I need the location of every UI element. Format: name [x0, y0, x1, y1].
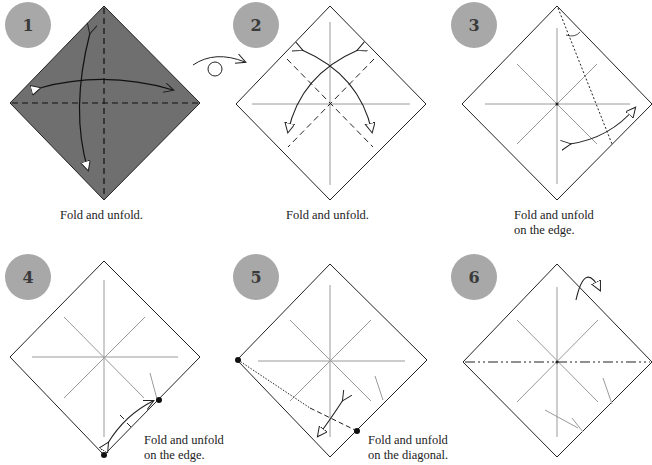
step-6-diagram: [463, 264, 652, 457]
step-badge-5: 5: [233, 254, 279, 300]
turn-over-icon: [193, 57, 245, 76]
step-badge-4: 4: [5, 254, 51, 300]
step-5-caption: Fold and unfold on the diagonal.: [368, 433, 448, 463]
step-4-caption: Fold and unfold on the edge.: [144, 433, 224, 463]
step-1-caption: Fold and unfold.: [60, 208, 143, 223]
step-2-caption: Fold and unfold.: [286, 208, 369, 223]
step-badge-2: 2: [233, 2, 279, 48]
step-badge-1: 1: [5, 2, 51, 48]
step-badge-3: 3: [451, 2, 497, 48]
step-badge-6: 6: [451, 254, 497, 300]
step-3-caption: Fold and unfold on the edge.: [514, 208, 594, 238]
